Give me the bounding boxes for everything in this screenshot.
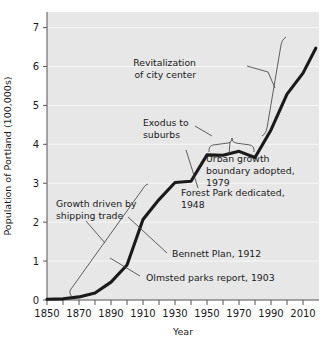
y-tick-label-2: 2 (33, 217, 39, 228)
x-tick-label-1850: 1850 (34, 308, 59, 319)
x-tick-label-1890: 1890 (98, 308, 123, 319)
annotation-revitalization-line-1: Revitalization (133, 57, 196, 68)
x-axis-title: Year (172, 326, 193, 337)
y-axis-title: Population of Portland (100,000s) (2, 76, 13, 235)
x-tick-label-1910: 1910 (130, 308, 155, 319)
annotation-exodus-line-2: suburbs (143, 129, 180, 140)
x-tick-label-1990: 1990 (258, 308, 283, 319)
annotation-urban-growth-line-2: boundary adopted, (206, 165, 295, 176)
x-tick-label-1950: 1950 (194, 308, 219, 319)
annotation-shipping-line-1: Growth driven by (56, 198, 137, 209)
x-tick-label-1970: 1970 (226, 308, 251, 319)
annotation-forest-park-line-1: Forest Park dedicated, (181, 187, 285, 198)
y-tick-label-0: 0 (33, 295, 39, 306)
y-tick-label-1: 1 (33, 256, 39, 267)
annotation-shipping-line-2: shipping trade (56, 210, 124, 221)
y-tick-label-5: 5 (33, 100, 39, 111)
annotation-bennett-plan-line-1: Bennett Plan, 1912 (172, 248, 261, 259)
y-tick-label-3: 3 (33, 178, 39, 189)
chart-figure: 01234567 1850187018901910193019501970199… (0, 0, 326, 342)
annotation-forest-park-line-2: 1948 (181, 199, 205, 210)
x-tick-label-1870: 1870 (66, 308, 91, 319)
annotation-olmsted-line-1: Olmsted parks report, 1903 (146, 272, 275, 283)
y-tick-label-6: 6 (33, 61, 39, 72)
annotation-olmsted: Olmsted parks report, 1903 (146, 272, 275, 283)
x-tick-label-1930: 1930 (162, 308, 187, 319)
annotation-revitalization-line-2: of city center (134, 69, 196, 80)
annotation-urban-growth-line-1: Urban growth (206, 153, 270, 164)
annotation-bennett-plan: Bennett Plan, 1912 (172, 248, 261, 259)
y-tick-label-7: 7 (33, 22, 39, 33)
annotation-revitalization: Revitalization of city center (133, 57, 196, 80)
x-tick-label-2010: 2010 (290, 308, 315, 319)
chart-svg: 01234567 1850187018901910193019501970199… (0, 0, 326, 342)
annotation-exodus-line-1: Exodus to (143, 117, 189, 128)
y-tick-label-4: 4 (33, 139, 39, 150)
